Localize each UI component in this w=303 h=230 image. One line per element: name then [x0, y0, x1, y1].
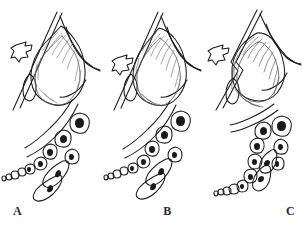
cell-chain	[214, 116, 291, 196]
pressure-arrow-icon	[112, 55, 133, 75]
capsule-outline	[161, 16, 201, 97]
figure-root: A	[0, 0, 303, 230]
pressure-arrow-icon	[11, 42, 32, 62]
cell-chain	[2, 113, 89, 201]
panel-b: B	[101, 0, 202, 230]
panel-a-drawing	[0, 0, 101, 205]
guide-curve	[25, 100, 78, 157]
panel-c-drawing	[202, 0, 303, 205]
panel-a: A	[0, 0, 101, 230]
capsule-outline	[60, 16, 100, 97]
panel-label-c: C	[240, 204, 303, 218]
panel-b-drawing	[101, 0, 202, 205]
pressure-arrow-icon	[208, 45, 229, 65]
panel-label-a: A	[0, 204, 68, 218]
panel-c: C	[202, 0, 303, 230]
cell-chain	[104, 111, 190, 199]
